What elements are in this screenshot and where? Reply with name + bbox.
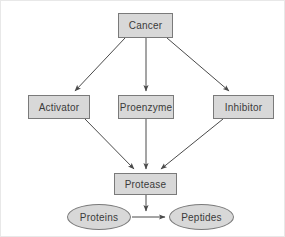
node-proteins-label: Proteins (80, 212, 118, 223)
node-activator-label: Activator (39, 102, 80, 113)
node-proenzyme[interactable]: Proenzyme (118, 95, 174, 119)
node-proteins[interactable]: Proteins (67, 204, 131, 230)
node-peptides-label: Peptides (181, 212, 222, 223)
node-cancer[interactable]: Cancer (118, 13, 173, 38)
node-protease-label: Protease (125, 179, 167, 190)
node-cancer-label: Cancer (129, 20, 162, 31)
diagram-canvas: Cancer Activator Proenzyme Inhibitor Pro… (0, 0, 285, 237)
edge-inhibitor-to-protease (161, 119, 223, 169)
node-inhibitor-label: Inhibitor (225, 102, 262, 113)
node-inhibitor[interactable]: Inhibitor (213, 95, 274, 119)
node-peptides[interactable]: Peptides (169, 204, 234, 230)
node-proenzyme-label: Proenzyme (120, 102, 172, 113)
edge-cancer-to-inhibitor (167, 38, 229, 91)
node-activator[interactable]: Activator (28, 95, 90, 119)
node-protease[interactable]: Protease (114, 173, 177, 195)
edge-cancer-to-activator (75, 38, 125, 91)
edge-activator-to-protease (85, 119, 134, 169)
